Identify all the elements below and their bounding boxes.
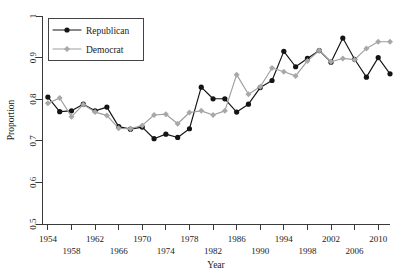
data-point-republican xyxy=(376,55,381,60)
data-point-republican xyxy=(222,96,227,101)
x-tick-label: 1998 xyxy=(298,246,317,256)
data-point-republican xyxy=(234,110,239,115)
data-point-republican xyxy=(199,85,204,90)
y-tick-group: 0.50.60.70.80.91 xyxy=(28,14,42,230)
chart-container: 0.50.60.70.80.91 Proportion 195419581962… xyxy=(0,0,403,275)
data-point-democrat xyxy=(57,95,63,101)
data-point-republican xyxy=(364,75,369,80)
x-axis-title: Year xyxy=(207,260,225,270)
data-point-republican xyxy=(210,96,215,101)
x-tick-label: 1962 xyxy=(86,234,104,244)
x-tick-label: 1970 xyxy=(133,234,152,244)
y-tick-label: 0.5 xyxy=(28,218,38,230)
data-point-republican xyxy=(246,102,251,107)
x-axis-group: 1954195819621966197019741978198219861990… xyxy=(39,224,390,270)
data-point-democrat xyxy=(234,72,240,78)
data-point-republican xyxy=(269,78,274,83)
x-tick-label: 1954 xyxy=(39,234,58,244)
x-tick-label: 2006 xyxy=(346,246,365,256)
y-axis-group: 0.50.60.70.80.91 Proportion xyxy=(6,14,42,230)
data-point-democrat xyxy=(340,55,346,61)
data-point-republican xyxy=(293,64,298,69)
x-tick-label: 2010 xyxy=(369,234,388,244)
legend-marker-circle-icon xyxy=(64,27,69,32)
x-tick-label: 1994 xyxy=(275,234,294,244)
data-point-democrat xyxy=(127,126,133,132)
data-point-democrat xyxy=(45,100,51,106)
x-tick-label: 2002 xyxy=(322,234,340,244)
data-point-democrat xyxy=(269,65,275,71)
data-point-republican xyxy=(163,132,168,137)
data-point-democrat xyxy=(210,112,216,118)
legend-label: Republican xyxy=(86,26,130,36)
data-point-democrat xyxy=(281,69,287,75)
x-tick-label: 1966 xyxy=(110,246,129,256)
data-point-republican xyxy=(45,95,50,100)
data-point-republican xyxy=(104,105,109,110)
data-point-republican xyxy=(340,35,345,40)
y-tick-label: 0.6 xyxy=(28,176,38,188)
data-point-republican xyxy=(69,108,74,113)
data-point-democrat xyxy=(387,39,393,45)
y-axis-title: Proportion xyxy=(6,99,16,140)
data-point-democrat xyxy=(245,91,251,97)
x-tick-label: 1990 xyxy=(251,246,270,256)
y-tick-label: 0.9 xyxy=(28,51,38,63)
y-tick-label: 0.7 xyxy=(28,135,38,147)
x-tick-label: 1978 xyxy=(180,234,199,244)
data-point-republican xyxy=(187,126,192,131)
chart-legend: RepublicanDemocrat xyxy=(48,18,143,60)
data-point-democrat xyxy=(375,39,381,45)
data-point-republican xyxy=(281,49,286,54)
x-tick-label: 1974 xyxy=(157,246,176,256)
x-tick-label: 1958 xyxy=(62,246,81,256)
y-tick-label: 1 xyxy=(28,14,38,19)
data-point-republican xyxy=(387,71,392,76)
legend-label: Democrat xyxy=(86,45,124,55)
y-tick-label: 0.8 xyxy=(28,93,38,105)
data-point-republican xyxy=(151,136,156,141)
data-point-republican xyxy=(57,109,62,114)
proportion-by-party-line-chart: 0.50.60.70.80.91 Proportion 195419581962… xyxy=(0,0,403,275)
x-tick-group: 1954195819621966197019741978198219861990… xyxy=(39,224,388,256)
data-point-democrat xyxy=(198,108,204,114)
data-point-democrat xyxy=(222,108,228,114)
data-point-republican xyxy=(175,135,180,140)
x-tick-label: 1982 xyxy=(204,246,222,256)
x-tick-label: 1986 xyxy=(228,234,247,244)
